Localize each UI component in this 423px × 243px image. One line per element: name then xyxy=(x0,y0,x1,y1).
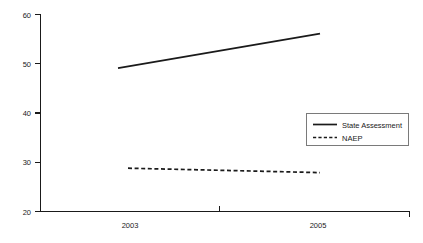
y-tick-label-40: 40 xyxy=(23,109,31,118)
series-state-assessment xyxy=(118,34,320,68)
y-tick-label-30: 30 xyxy=(23,158,31,167)
legend-label-state-assessment: State Assessment xyxy=(342,121,403,130)
legend: State Assessment NAEP xyxy=(307,114,409,146)
line-chart: 60 50 40 30 20 2003 2005 State Assessmen… xyxy=(0,0,423,243)
y-tick-label-50: 50 xyxy=(23,60,31,69)
y-tick-label-20: 20 xyxy=(23,208,31,217)
series-naep xyxy=(128,168,320,172)
y-tick-label-60: 60 xyxy=(23,11,31,20)
x-tick-label-2005: 2005 xyxy=(310,221,327,230)
chart-canvas: 60 50 40 30 20 2003 2005 State Assessmen… xyxy=(0,0,423,243)
legend-label-naep: NAEP xyxy=(342,134,362,143)
x-tick-label-2003: 2003 xyxy=(122,221,139,230)
